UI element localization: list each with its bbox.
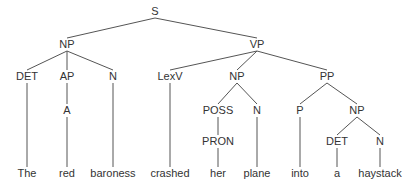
edge-np1-det1 [27,51,67,70]
edge-np1-n1 [67,51,113,70]
edge-pp-np3 [327,83,357,104]
node-ap: AP [60,70,75,82]
node-pron: PRON [202,135,234,147]
word-crashed: crashed [150,167,189,179]
node-p: P [296,104,303,116]
tree-nodes: SNPVPDETAPNLexVNPPPAPOSSNPNPPRONDETNTher… [16,5,402,179]
node-n3: N [376,135,384,147]
node-det1: DET [16,70,38,82]
node-n2: N [253,104,261,116]
edge-np2-n2 [237,83,257,104]
edge-np3-n3 [357,117,380,135]
node-np3: NP [349,104,364,116]
node-lexv: LexV [157,70,183,82]
node-det2: DET [326,135,348,147]
word-into: into [291,167,309,179]
node-vp: VP [250,38,265,50]
node-np2: NP [229,70,244,82]
syntax-tree-diagram: SNPVPDETAPNLexVNPPPAPOSSNPNPPRONDETNTher… [0,0,415,193]
edge-vp-pp [257,51,327,70]
edge-pp-p [300,83,327,104]
word-baroness: baroness [90,167,136,179]
node-n1: N [109,70,117,82]
node-pp: PP [320,70,335,82]
word-a: a [334,167,341,179]
word-haystack: haystack [358,167,402,179]
edge-s-vp [155,18,257,38]
word-her: her [210,167,226,179]
edge-vp-lexv [170,51,257,70]
edge-np2-poss [218,83,237,104]
node-np1: NP [59,38,74,50]
edge-s-np1 [67,18,155,38]
node-a: A [63,104,71,116]
node-s: S [151,5,158,17]
edge-vp-np2 [237,51,257,70]
word-the: The [18,167,37,179]
word-plane: plane [244,167,271,179]
edge-np3-det2 [337,117,357,135]
node-poss: POSS [203,104,234,116]
word-red: red [59,167,75,179]
